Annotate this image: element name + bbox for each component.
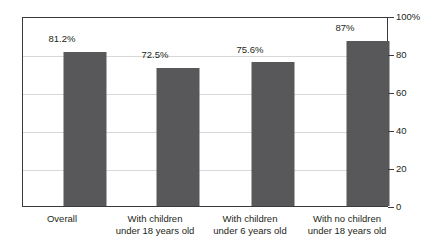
x-axis-label-with-no-children-under-18-line-1: With no children xyxy=(301,213,393,225)
x-axis-label-with-no-children-under-18: With no children under 18 years old xyxy=(301,213,393,236)
bar-with-children-under-6[interactable] xyxy=(252,62,295,206)
bar-with-children-under-18[interactable] xyxy=(157,68,200,206)
value-label-with-no-children-under-18: 87% xyxy=(303,22,387,33)
value-label-with-children-under-18: 72.5% xyxy=(113,49,197,60)
x-axis-label-with-children-under-6-line-1: With children xyxy=(206,213,294,225)
y-tick-40 xyxy=(388,131,394,132)
y-axis-label-60: 60 xyxy=(396,88,407,98)
y-axis-label-40: 40 xyxy=(396,126,407,136)
y-axis-label-100: 100% xyxy=(396,12,420,22)
x-axis-label-with-children-under-18-line-2: under 18 years old xyxy=(111,225,199,237)
y-axis-label-80: 80 xyxy=(396,50,407,60)
y-tick-100 xyxy=(388,17,394,18)
x-axis-label-overall: Overall xyxy=(18,213,106,225)
x-axis-label-overall-line-1: Overall xyxy=(18,213,106,225)
bar-slot-3 xyxy=(324,18,412,206)
x-axis-label-with-children-under-6: With children under 6 years old xyxy=(206,213,294,236)
value-label-overall: 81.2% xyxy=(20,33,104,44)
x-axis-label-with-children-under-18-line-1: With children xyxy=(111,213,199,225)
bar-overall[interactable] xyxy=(64,52,107,206)
y-tick-0 xyxy=(388,207,394,208)
value-label-with-children-under-6: 75.6% xyxy=(208,44,292,55)
y-axis-label-0: 0 xyxy=(396,202,401,212)
bar-slot-0 xyxy=(41,18,129,206)
x-axis-label-with-children-under-6-line-2: under 6 years old xyxy=(206,225,294,237)
x-axis-label-with-children-under-18: With children under 18 years old xyxy=(111,213,199,236)
plot-area xyxy=(22,17,388,207)
bar-with-no-children-under-18[interactable] xyxy=(347,41,390,206)
x-axis-label-with-no-children-under-18-line-2: under 18 years old xyxy=(301,225,393,237)
y-axis-label-20: 20 xyxy=(396,164,407,174)
bar-chart-figure: 81.2% 72.5% 75.6% 87% 100% 80 60 40 20 0… xyxy=(0,0,433,248)
y-tick-80 xyxy=(388,55,394,56)
y-tick-60 xyxy=(388,93,394,94)
clipped-caption-above xyxy=(26,0,356,4)
bar-group xyxy=(23,18,387,206)
y-tick-20 xyxy=(388,169,394,170)
